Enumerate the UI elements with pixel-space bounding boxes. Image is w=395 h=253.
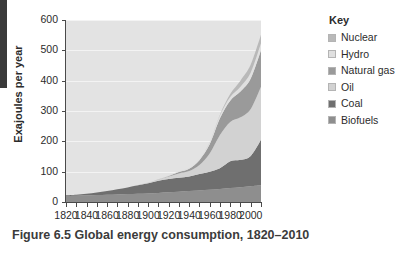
legend-title: Key [329, 14, 394, 26]
x-axis-tick-mark [199, 203, 200, 207]
y-axis-tick-label: 100 [16, 166, 58, 176]
legend-item-coal: Coal [328, 98, 394, 109]
y-axis-tick-mark [62, 111, 65, 112]
legend-item-label: Biofuels [341, 115, 378, 126]
y-axis-tick-label: 200 [16, 135, 58, 145]
legend-swatch-icon [328, 34, 336, 42]
y-axis-tick-mark [62, 172, 65, 173]
legend-item-label: Coal [341, 98, 363, 109]
x-axis-tick-mark [261, 203, 262, 207]
legend-item-nuclear: Nuclear [328, 32, 394, 43]
legend-item-biofuels: Biofuels [328, 115, 394, 126]
legend-swatch-icon [328, 116, 336, 124]
legend-item-label: Oil [341, 82, 354, 93]
x-axis-tick-mark [76, 203, 77, 207]
legend-items: NuclearHydroNatural gasOilCoalBiofuels [328, 32, 394, 126]
x-axis-tick-mark [138, 203, 139, 207]
legend: Key NuclearHydroNatural gasOilCoalBiofue… [328, 14, 394, 131]
legend-item-natural-gas: Natural gas [328, 65, 394, 76]
x-axis-tick-mark [189, 203, 190, 207]
x-axis-tick-mark [230, 203, 231, 207]
legend-item-label: Nuclear [341, 32, 377, 43]
y-axis-tick-mark [62, 81, 65, 82]
legend-item-label: Hydro [341, 49, 369, 60]
x-axis-tick-mark [158, 203, 159, 207]
x-axis-tick-label: 2000 [231, 209, 271, 221]
x-axis-tick-mark [210, 203, 211, 207]
x-axis-tick-mark [169, 203, 170, 207]
y-axis-tick-label: 300 [16, 105, 58, 115]
y-axis-tick-label: 500 [16, 44, 58, 54]
stacked-area-series [66, 20, 261, 202]
legend-swatch-icon [328, 67, 336, 75]
legend-item-oil: Oil [328, 82, 394, 93]
y-axis-tick-mark [62, 20, 65, 21]
y-axis-tick-mark [62, 141, 65, 142]
legend-swatch-icon [328, 83, 336, 91]
y-axis-tick-mark [62, 202, 65, 203]
y-axis-tick-label: 600 [16, 14, 58, 24]
x-axis-tick-mark [66, 203, 67, 207]
y-axis-tick-label: 400 [16, 75, 58, 85]
x-axis-tick-mark [107, 203, 108, 207]
x-axis-tick-mark [240, 203, 241, 207]
legend-item-label: Natural gas [341, 65, 395, 76]
x-axis-tick-mark [117, 203, 118, 207]
x-axis-tick-mark [87, 203, 88, 207]
legend-swatch-icon [328, 100, 336, 108]
x-axis-tick-mark [179, 203, 180, 207]
plot-area [66, 20, 261, 202]
x-axis-tick-mark [97, 203, 98, 207]
x-axis-tick-mark [251, 203, 252, 207]
y-axis-tick-label: 0 [16, 196, 58, 206]
legend-item-hydro: Hydro [328, 49, 394, 60]
y-axis-tick-mark [62, 50, 65, 51]
legend-swatch-icon [328, 50, 336, 58]
figure-caption: Figure 6.5 Global energy consumption, 18… [12, 228, 382, 243]
x-axis-tick-mark [128, 203, 129, 207]
x-axis-tick-mark [220, 203, 221, 207]
x-axis-tick-mark [148, 203, 149, 207]
x-axis-line [65, 202, 262, 203]
